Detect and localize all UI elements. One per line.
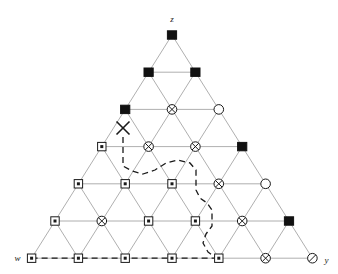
lattice-edge-down-right <box>172 109 195 146</box>
lattice-edge-down-left <box>102 184 125 221</box>
lattice-edge-down-right <box>149 72 172 109</box>
lattice-node-dotted-square <box>51 217 59 225</box>
lattice-node-filled-square <box>144 68 153 76</box>
lattice-node-open-circle <box>214 105 224 115</box>
square-inner-dot <box>100 145 103 148</box>
lattice-edge-down-left <box>266 221 289 258</box>
lattice-edge-group <box>32 35 313 258</box>
square-inner-dot <box>77 182 80 185</box>
filled-square-marker <box>284 217 293 225</box>
lattice-node-crossed-circle <box>167 105 177 115</box>
lattice-node-dotted-square <box>215 254 223 262</box>
lattice-edge-down-right <box>289 221 312 258</box>
lattice-node-crossed-circle <box>144 142 154 152</box>
square-inner-dot <box>124 257 127 260</box>
lattice-edge-down-right <box>149 221 172 258</box>
lattice-edge-down-right <box>219 184 242 221</box>
lattice-node-dotted-square <box>144 217 152 225</box>
lattice-edge-down-left <box>149 109 172 146</box>
triangular-lattice-figure: z w y <box>0 0 338 274</box>
lattice-edge-down-left <box>195 184 218 221</box>
lattice-edge-down-right <box>102 221 125 258</box>
lattice-edge-down-left <box>32 221 55 258</box>
lattice-node-filled-square <box>167 31 176 39</box>
lattice-edge-down-right <box>125 109 148 146</box>
square-inner-dot <box>147 220 150 223</box>
lattice-edge-down-right <box>125 184 148 221</box>
lattice-edge-down-left <box>102 109 125 146</box>
lattice-edge-down-left <box>242 184 265 221</box>
dashed-path-group <box>32 137 219 258</box>
lattice-canvas: z w y <box>0 0 338 274</box>
lattice-edge-down-left <box>195 109 218 146</box>
lattice-edge-down-right <box>55 221 78 258</box>
square-inner-dot <box>54 220 57 223</box>
lattice-edge-down-right <box>266 184 289 221</box>
lattice-node-dotted-square <box>191 217 199 225</box>
lattice-node-dotted-square <box>168 180 176 188</box>
lattice-edge-down-right <box>195 221 218 258</box>
lattice-node-crossed-circle <box>97 216 107 226</box>
lattice-node-dotted-square <box>121 254 129 262</box>
lattice-node-dotted-square <box>27 254 35 262</box>
lattice-node-filled-square <box>284 217 293 225</box>
square-inner-dot <box>171 257 174 260</box>
lattice-node-crossed-circle <box>214 179 224 189</box>
lattice-edge-down-right <box>195 147 218 184</box>
lattice-edge-down-right <box>242 147 265 184</box>
lattice-edge-down-right <box>102 147 125 184</box>
lattice-edge-down-left <box>172 72 195 109</box>
square-inner-dot <box>194 220 197 223</box>
lattice-node-filled-square <box>191 68 200 76</box>
x-cross-marker <box>117 122 130 135</box>
lattice-node-filled-square <box>121 105 130 113</box>
lattice-node-crossed-circle <box>261 253 271 263</box>
square-inner-dot <box>217 257 220 260</box>
lattice-node-dotted-square <box>74 180 82 188</box>
lattice-edge-down-left <box>172 221 195 258</box>
lattice-node-crossed-circle <box>191 142 201 152</box>
apex-label-z: z <box>169 14 174 24</box>
lattice-edge-down-left <box>125 147 148 184</box>
lattice-node-dotted-square <box>168 254 176 262</box>
open-circle-marker <box>214 105 224 115</box>
lattice-edge-down-left <box>125 72 148 109</box>
square-inner-dot <box>77 257 80 260</box>
lattice-edge-down-left <box>219 147 242 184</box>
square-inner-dot <box>124 182 127 185</box>
lattice-node-dotted-square <box>98 142 106 150</box>
lattice-node-slashed-circle <box>308 253 318 263</box>
lattice-edge-down-left <box>55 184 78 221</box>
dashed-boundary-path <box>123 137 218 258</box>
lattice-edge-down-right <box>149 147 172 184</box>
filled-square-marker <box>167 31 176 39</box>
lattice-edge-down-right <box>172 184 195 221</box>
lattice-edge-down-left <box>78 221 101 258</box>
filled-square-marker <box>191 68 200 76</box>
lattice-edge-down-left <box>219 221 242 258</box>
lattice-edge-down-left <box>78 147 101 184</box>
lattice-edge-down-right <box>78 184 101 221</box>
bottom-right-label-y: y <box>323 255 328 265</box>
lattice-node-dotted-square <box>121 180 129 188</box>
lattice-edge-down-right <box>242 221 265 258</box>
bottom-left-label-w: w <box>15 253 21 263</box>
filled-square-marker <box>121 105 130 113</box>
lattice-edge-down-left <box>149 184 172 221</box>
square-inner-dot <box>171 182 174 185</box>
lattice-edge-down-left <box>125 221 148 258</box>
lattice-edge-down-right <box>219 109 242 146</box>
square-inner-dot <box>30 257 33 260</box>
open-circle-marker <box>261 179 271 189</box>
lattice-node-crossed-circle <box>237 216 247 226</box>
filled-square-marker <box>144 68 153 76</box>
lattice-node-filled-square <box>238 142 247 150</box>
lattice-edge-down-right <box>172 35 195 72</box>
lattice-node-dotted-square <box>74 254 82 262</box>
filled-square-marker <box>238 142 247 150</box>
lattice-edge-down-left <box>149 35 172 72</box>
lattice-node-open-circle <box>261 179 271 189</box>
lattice-edge-down-right <box>195 72 218 109</box>
